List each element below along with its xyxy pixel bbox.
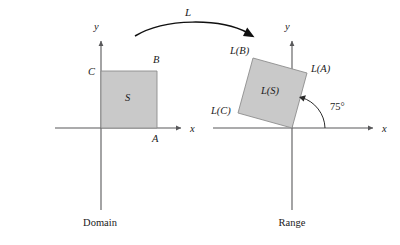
linear-map-arrow-curve [135, 22, 248, 36]
vertex-la-label: L(A) [310, 63, 331, 75]
range-caption: Range [279, 217, 306, 228]
domain-caption: Domain [83, 217, 118, 228]
range-panel: x y L(S) L(A) L(B) L(C) 75° Range [210, 21, 387, 228]
linear-map-label: L [184, 6, 191, 18]
domain-y-axis-label: y [93, 21, 99, 32]
figure-svg: x y S A B C Domain L x y L(S) L(A) L(B) [0, 0, 400, 245]
domain-region-label: S [125, 92, 131, 103]
angle-arc-75 [302, 98, 326, 129]
linear-map-arrow-head [243, 28, 255, 38]
linear-map-arrow-group: L [135, 6, 255, 37]
domain-x-axis-label: x [189, 123, 195, 134]
angle-label: 75° [330, 101, 345, 112]
angle-indicator: 75° [299, 95, 345, 128]
vertex-a-label: A [151, 133, 159, 144]
range-x-axis-label: x [381, 123, 387, 134]
vertex-b-label: B [153, 54, 160, 65]
vertex-lb-label: L(B) [229, 45, 250, 57]
vertex-c-label: C [88, 66, 96, 77]
figure-container: x y S A B C Domain L x y L(S) L(A) L(B) [0, 0, 400, 245]
vertex-lc-label: L(C) [210, 105, 231, 117]
domain-panel: x y S A B C Domain [55, 21, 195, 228]
range-y-axis-label: y [284, 21, 290, 32]
range-region-label: L(S) [260, 85, 280, 97]
